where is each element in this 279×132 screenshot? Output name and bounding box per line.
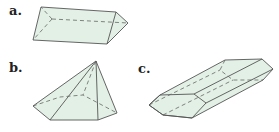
hexagonal-prism-figure bbox=[149, 59, 273, 118]
pentagonal-pyramid-figure bbox=[33, 61, 117, 120]
triangular-prism-figure bbox=[33, 7, 128, 44]
geometric-figures bbox=[0, 0, 279, 132]
